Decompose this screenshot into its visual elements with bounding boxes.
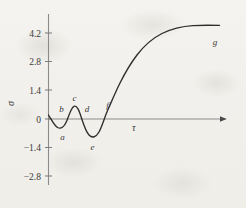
point-label-d: d — [85, 104, 90, 114]
point-label-a: a — [60, 132, 65, 142]
y-tick-label-neg-2-8: −2.8 — [24, 172, 41, 182]
plot-area: 4.2 2.8 1.4 0 −1.4 −2.8 σ τ a b c d e f … — [0, 0, 246, 208]
curve-point-labels: a b c d e f g — [59, 37, 218, 152]
point-label-e: e — [91, 142, 95, 152]
y-tick-label-2-8: 2.8 — [29, 57, 41, 67]
y-tick-label-neg-1-4: −1.4 — [24, 143, 41, 153]
data-curve — [49, 25, 220, 137]
x-axis-title: τ — [132, 122, 136, 133]
y-axis-title: σ — [5, 100, 16, 106]
y-tick-label-0: 0 — [36, 115, 41, 125]
point-label-b: b — [59, 104, 64, 114]
point-label-g: g — [213, 37, 218, 47]
figure-canvas: 4.2 2.8 1.4 0 −1.4 −2.8 σ τ a b c d e f … — [0, 0, 246, 208]
y-tick-label-4-2: 4.2 — [29, 29, 41, 39]
y-tick-label-1-4: 1.4 — [29, 86, 41, 96]
y-axis-tick-labels: 4.2 2.8 1.4 0 −1.4 −2.8 — [24, 29, 41, 182]
point-label-c: c — [73, 93, 77, 103]
